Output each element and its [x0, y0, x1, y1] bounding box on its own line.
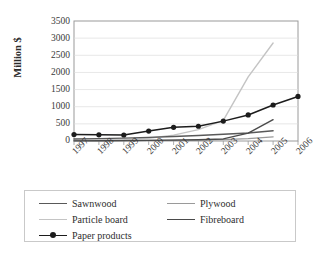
legend-line-plywood-icon — [167, 199, 195, 209]
legend-item-plywood: Plywood — [167, 196, 236, 211]
data-point — [121, 132, 126, 137]
legend-marker-circle-icon — [50, 232, 56, 238]
plot-frame — [74, 21, 298, 141]
plot-container: Million $ 3500 3000 2500 2000 1500 1000 … — [0, 0, 323, 182]
legend-line-paper-products-icon — [39, 231, 67, 241]
data-point — [246, 112, 251, 117]
legend-line-sawnwood-icon — [39, 199, 67, 209]
data-point — [196, 124, 201, 129]
legend-item-sawnwood: Sawnwood — [39, 196, 116, 211]
chart-legend: Sawnwood Plywood Particle board Fibreboa… — [24, 190, 296, 242]
data-point — [71, 132, 76, 137]
data-point — [171, 125, 176, 130]
legend-line-fibreboard-icon — [167, 215, 195, 225]
legend-item-particle-board: Particle board — [39, 212, 128, 227]
legend-label: Particle board — [72, 214, 128, 225]
legend-label: Sawnwood — [72, 198, 116, 209]
legend-item-fibreboard: Fibreboard — [167, 212, 244, 227]
legend-line-particle-board-icon — [39, 215, 67, 225]
data-point — [295, 94, 300, 99]
legend-label: Fibreboard — [200, 214, 244, 225]
data-point — [221, 119, 226, 124]
legend-label: Plywood — [200, 198, 236, 209]
data-point — [96, 132, 101, 137]
legend-item-paper-products: Paper products — [39, 228, 132, 243]
data-point — [271, 102, 276, 107]
legend-label: Paper products — [72, 230, 132, 241]
chart-figure: Million $ 3500 3000 2500 2000 1500 1000 … — [0, 0, 323, 253]
data-point — [146, 128, 151, 133]
